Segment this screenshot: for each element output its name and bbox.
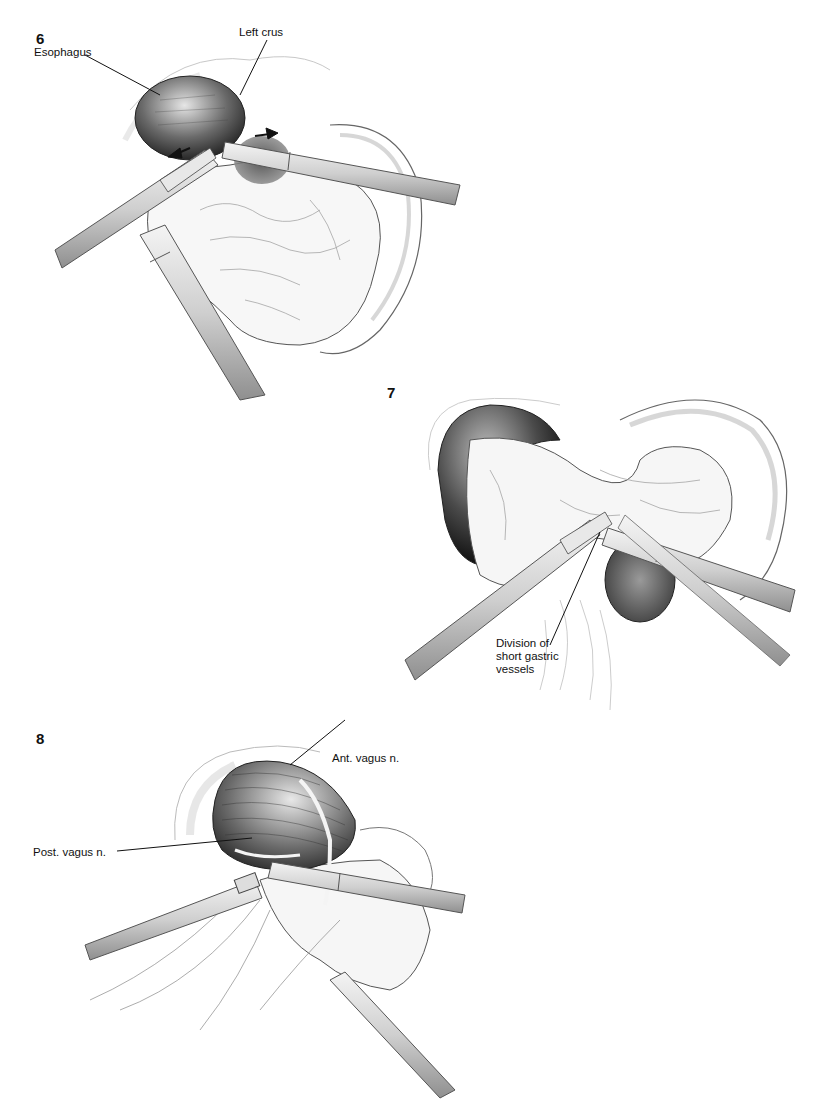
- figure-8-illustration: [0, 0, 834, 1113]
- label-ant-vagus-nerve: Ant. vagus n.: [332, 752, 399, 765]
- figure-8: 8 Ant. vagus n. Post. vagus n.: [0, 0, 834, 1113]
- figure-8-number: 8: [36, 730, 44, 747]
- label-post-vagus-nerve: Post. vagus n.: [33, 846, 106, 859]
